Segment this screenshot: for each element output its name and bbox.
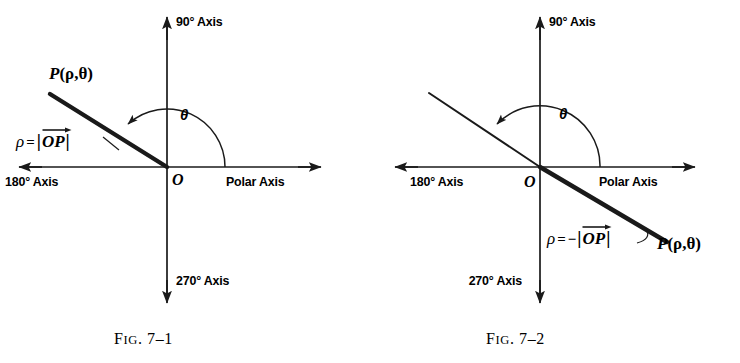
fig1-vector-OP-text: OP — [42, 132, 65, 151]
fig1-vector-arrow-icon — [42, 127, 72, 133]
fig1-label-polar-axis: Polar Axis — [226, 175, 284, 189]
fig2-origin-label: O — [524, 174, 536, 190]
fig2-point-P-args: (ρ,θ) — [667, 234, 701, 253]
fig2-label-90-axis: 90° Axis — [549, 15, 596, 29]
fig1-theta-label: θ — [180, 107, 188, 122]
fig2-rho-equals: = — [556, 232, 567, 247]
fig1-caption: FIG. 7–1 — [114, 330, 173, 348]
fig1-rho-bar-right: | — [66, 131, 70, 150]
fig-7-2-graphic — [395, 17, 695, 303]
fig2-point-P-letter: P — [657, 234, 667, 253]
fig-7-1-graphic — [19, 17, 321, 303]
fig2-label-270-axis: 270° Axis — [469, 274, 522, 288]
fig2-rho-symbol: ρ — [547, 230, 555, 247]
fig2-theta-arc — [497, 106, 600, 167]
fig1-rho-expression: ρ = | OP | — [16, 131, 70, 150]
fig1-rho-equals: = — [25, 135, 36, 150]
fig1-label-90-axis: 90° Axis — [176, 15, 223, 29]
fig2-caption-smallcaps: IG — [496, 333, 510, 347]
fig1-rho-symbol: ρ — [16, 133, 24, 150]
fig2-vector-arrow-icon — [582, 224, 612, 230]
fig1-caption-smallcaps: IG — [124, 333, 138, 347]
fig2-label-polar-axis: Polar Axis — [599, 175, 657, 189]
fig2-vector-OP: OP — [582, 230, 605, 247]
fig2-theta-label: θ — [559, 106, 567, 121]
fig2-caption: FIG. 7–2 — [486, 330, 545, 348]
fig2-rho-bar-left: | — [577, 228, 581, 247]
fig2-label-180-axis: 180° Axis — [410, 175, 463, 189]
fig1-vector-OP: OP — [42, 133, 65, 150]
fig1-label-270-axis: 270° Axis — [176, 274, 229, 288]
fig1-origin-label: O — [172, 172, 184, 188]
fig2-caption-prefix: F — [486, 330, 496, 347]
fig2-rho-sign: − — [568, 232, 577, 247]
fig1-point-P-letter: P — [49, 64, 59, 83]
fig1-label-180-axis: 180° Axis — [5, 175, 58, 189]
fig2-rho-bar-right: | — [606, 228, 610, 247]
fig1-point-P-label: P(ρ,θ) — [49, 65, 93, 82]
figure-canvas: 90° Axis 270° Axis Polar Axis 180° Axis … — [0, 0, 740, 363]
fig1-point-P-args: (ρ,θ) — [59, 64, 93, 83]
fig1-caption-rest: . 7–1 — [138, 330, 173, 347]
fig1-rho-leader — [103, 137, 119, 150]
fig2-point-P-label: P(ρ,θ) — [657, 235, 701, 252]
fig2-ray-theta-direction — [429, 93, 540, 167]
fig1-theta-arc — [128, 109, 225, 167]
fig1-rho-bar-left: | — [37, 131, 41, 150]
fig1-caption-prefix: F — [114, 330, 124, 347]
fig2-rho-expression: ρ = − | OP | — [547, 228, 610, 247]
fig2-vector-OP-text: OP — [582, 229, 605, 248]
fig2-caption-rest: . 7–2 — [510, 330, 545, 347]
